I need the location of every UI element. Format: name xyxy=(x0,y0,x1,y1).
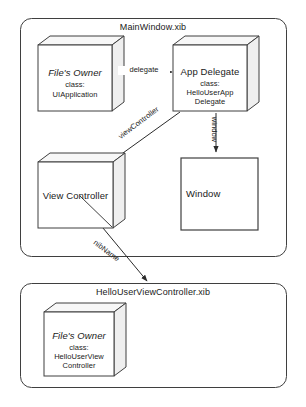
node-classkey-files-owner-main: class: xyxy=(38,81,112,90)
node-label-app-delegate: App Delegate xyxy=(173,66,247,77)
node-label-files-owner-vc: File's Owner xyxy=(44,330,114,341)
node-label-view-controller: View Controller xyxy=(38,190,113,201)
uml-diagram-canvas: MainWindow.xib HelloUserViewController.x… xyxy=(0,0,306,407)
edge-label-delegate: delegate xyxy=(118,66,170,75)
node-classname-files-owner-vc-line2: Controller xyxy=(44,362,114,371)
container-title-mainwindow: MainWindow.xib xyxy=(20,22,286,33)
node-label-window: Window xyxy=(186,188,256,199)
node-label-files-owner-main: File's Owner xyxy=(38,67,112,78)
container-title-hellouserviewcontroller: HelloUserViewController.xib xyxy=(20,287,286,298)
edge-label-window: window xyxy=(210,109,219,149)
node-classname-app-delegate-line2: Delegate xyxy=(173,98,247,107)
node-classname-files-owner-main: UIApplication xyxy=(38,91,112,100)
